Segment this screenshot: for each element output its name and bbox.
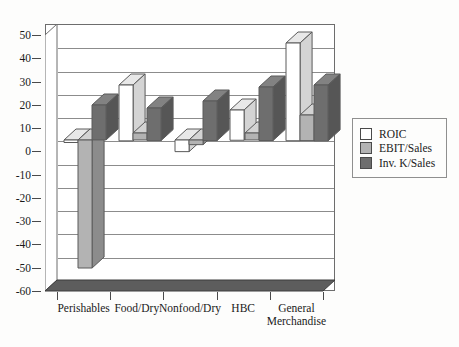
bar-inv-k-sales-food-dry: [147, 108, 161, 141]
x-axis-category-line: General: [250, 302, 342, 315]
bar-inv-k-sales-nonfood-dry: [203, 101, 217, 141]
x-axis-tick: [57, 292, 58, 300]
bar-shape: [203, 90, 231, 143]
plot-area: 50403020100-10-20-30-40-50-60 Perishable…: [0, 0, 459, 347]
legend-swatch-ebit-sales: [360, 142, 372, 154]
bar-ebit-sales-perishables: [78, 140, 92, 268]
bar-inv-k-sales-perishables: [92, 105, 106, 140]
bar-ebit-sales-food-dry: [133, 133, 147, 140]
legend-swatch-roic: [360, 128, 372, 140]
bar-roic-nonfood-dry: [175, 140, 189, 152]
x-axis-tick: [270, 292, 271, 300]
bar-roic-general-merchandise: [286, 43, 300, 141]
legend-label-ebit-sales: EBIT/Sales: [379, 142, 432, 154]
legend-item-ebit-sales: EBIT/Sales: [360, 142, 440, 154]
x-axis-category-line: Merchandise: [250, 315, 342, 328]
legend-item-roic: ROIC: [360, 128, 440, 140]
legend-label-inv-k-sales: Inv. K/Sales: [379, 157, 435, 169]
x-axis-tick: [110, 292, 111, 300]
bar-inv-k-sales-general-merchandise: [314, 85, 328, 141]
bar-shape: [147, 97, 175, 143]
x-axis-tick: [217, 292, 218, 300]
chart-figure: 50403020100-10-20-30-40-50-60 Perishable…: [0, 0, 459, 347]
bar-ebit-sales-general-merchandise: [300, 115, 314, 141]
bar-roic-perishables: [64, 140, 78, 143]
bar-shape: [78, 129, 106, 270]
legend-item-inv-k-sales: Inv. K/Sales: [360, 157, 440, 169]
chart-legend: ROIC EBIT/Sales Inv. K/Sales: [352, 118, 447, 178]
bar-roic-hbc: [230, 110, 244, 140]
bar-ebit-sales-nonfood-dry: [189, 140, 203, 145]
x-axis-tick: [163, 292, 164, 300]
bar-ebit-sales-hbc: [245, 133, 259, 140]
bar-shape: [314, 74, 342, 143]
legend-swatch-inv-k-sales: [360, 157, 372, 169]
x-axis-category-label: GeneralMerchandise: [250, 302, 342, 328]
x-axis-tick: [323, 292, 324, 300]
legend-label-roic: ROIC: [379, 128, 406, 140]
bar-shape: [92, 94, 120, 142]
bar-inv-k-sales-hbc: [259, 87, 273, 141]
bar-shape: [259, 76, 287, 143]
bar-roic-food-dry: [119, 85, 133, 141]
